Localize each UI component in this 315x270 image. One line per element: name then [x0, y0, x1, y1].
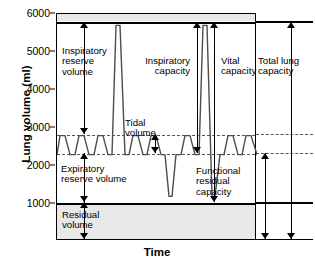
y-tick-label-2000: 2000: [8, 160, 50, 170]
tidal-peak-dashed-line-extension: [256, 134, 313, 135]
tidal-volume-label: Tidal volume: [125, 118, 165, 139]
y-tick-mark: [50, 51, 55, 52]
functional-residual-capacity-label: Functional residual capacity: [196, 166, 256, 197]
inspiratory-reserve-volume-arrow: [80, 22, 89, 134]
y-tick-mark: [50, 127, 55, 128]
residual-volume-label: Residual volume: [62, 210, 122, 231]
baseline-extension: [256, 239, 313, 240]
y-tick-label-1000: 1000: [8, 198, 50, 208]
vital-capacity-label: Vital capacity: [221, 56, 263, 77]
y-tick-label-6000: 6000: [8, 8, 50, 18]
expiratory-reserve-volume-label: Expiratory reserve volume: [61, 164, 155, 185]
functional-residual-capacity-arrow: [261, 153, 270, 239]
y-tick-label-4000: 4000: [8, 84, 50, 94]
tlc-line-extension: [256, 21, 313, 23]
x-axis-label: Time: [57, 246, 257, 258]
inspiratory-reserve-volume-label: Inspiratory reserve volume: [62, 46, 120, 77]
y-tick-mark: [50, 13, 55, 14]
y-tick-mark: [50, 165, 55, 166]
y-tick-mark: [50, 89, 55, 90]
inspiratory-capacity-arrow: [193, 22, 202, 153]
inspiratory-capacity-label: Inspiratory capacity: [132, 56, 190, 77]
y-tick-label-5000: 5000: [8, 46, 50, 56]
total-lung-capacity-label: Total lung capacity: [258, 56, 314, 77]
y-tick-mark: [50, 203, 55, 204]
y-tick-label-3000: 3000: [8, 122, 50, 132]
spirogram-figure: Lung volume (ml) 6000 5000 4000 3000 200…: [0, 0, 315, 270]
